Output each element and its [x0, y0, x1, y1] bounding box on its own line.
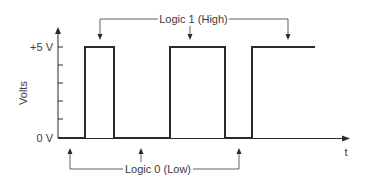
y-axis-label: Volts [17, 81, 29, 105]
x-axis-label: t [344, 146, 347, 158]
x-axis-arrow-icon [342, 136, 350, 142]
x-axis [58, 136, 350, 142]
arrow-down-icon [98, 34, 103, 40]
logic-high-annotation: Logic 1 (High) [98, 13, 291, 40]
arrow-up-icon [139, 148, 144, 154]
arrow-up-icon [68, 148, 73, 154]
arrow-down-icon [286, 34, 291, 40]
logic-high-label: Logic 1 (High) [159, 13, 227, 25]
logic-low-label: Logic 0 (Low) [125, 163, 191, 175]
y-axis [55, 27, 63, 138]
arrow-down-icon [188, 34, 193, 40]
arrow-up-icon [237, 148, 242, 154]
square-waveform [58, 47, 315, 138]
high-level-label: +5 V [30, 41, 54, 53]
logic-low-annotation: Logic 0 (Low) [68, 148, 242, 175]
low-level-label: 0 V [36, 132, 53, 144]
logic-level-diagram: +5 V 0 V Volts t Logic 1 (High) Logic 0 … [0, 0, 366, 182]
y-axis-arrow-icon [55, 27, 61, 34]
